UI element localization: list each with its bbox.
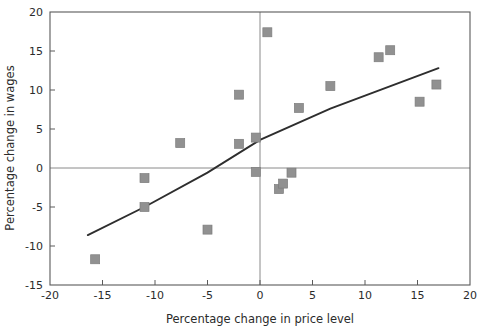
data-point-marker xyxy=(432,80,441,89)
data-point-marker xyxy=(235,90,244,99)
y-axis-title: Percentage change in wages xyxy=(3,65,17,230)
x-tick-label: -20 xyxy=(41,289,59,302)
x-tick-label: -10 xyxy=(146,289,164,302)
data-point-marker xyxy=(203,225,212,234)
x-tick-label: -5 xyxy=(202,289,213,302)
data-point-marker xyxy=(235,139,244,148)
scatter-chart: -20-15-10-505101520 -15-10-505101520 Per… xyxy=(0,0,489,334)
y-tick-label: 5 xyxy=(36,123,43,136)
x-axis-tick-labels: -20-15-10-505101520 xyxy=(41,289,477,302)
data-point-marker xyxy=(415,97,424,106)
y-tick-label: 20 xyxy=(29,6,43,19)
x-tick-label: 5 xyxy=(309,289,316,302)
data-point-marker xyxy=(287,168,296,177)
data-point-marker xyxy=(91,255,100,264)
x-tick-label: 15 xyxy=(411,289,425,302)
data-point-marker xyxy=(176,139,185,148)
x-tick-label: 10 xyxy=(358,289,372,302)
y-tick-label: -5 xyxy=(32,201,43,214)
data-point-marker xyxy=(374,53,383,62)
y-tick-label: -10 xyxy=(25,240,43,253)
y-tick-label: 0 xyxy=(36,162,43,175)
y-axis-tick-labels: -15-10-505101520 xyxy=(25,6,43,292)
x-tick-label: 0 xyxy=(257,289,264,302)
data-point-marker xyxy=(251,133,260,142)
y-tick-label: 10 xyxy=(29,84,43,97)
data-point-marker xyxy=(140,203,149,212)
x-axis-title: Percentage change in price level xyxy=(166,312,354,326)
x-tick-label: -15 xyxy=(94,289,112,302)
data-point-marker xyxy=(326,82,335,91)
data-point-marker xyxy=(279,179,288,188)
data-point-marker xyxy=(140,174,149,183)
data-point-marker xyxy=(263,28,272,37)
y-tick-label: -15 xyxy=(25,279,43,292)
chart-canvas: -20-15-10-505101520 -15-10-505101520 Per… xyxy=(0,0,489,334)
data-point-marker xyxy=(251,167,260,176)
y-tick-label: 15 xyxy=(29,45,43,58)
data-point-marker xyxy=(386,46,395,55)
x-tick-label: 20 xyxy=(463,289,477,302)
data-point-marker xyxy=(294,103,303,112)
